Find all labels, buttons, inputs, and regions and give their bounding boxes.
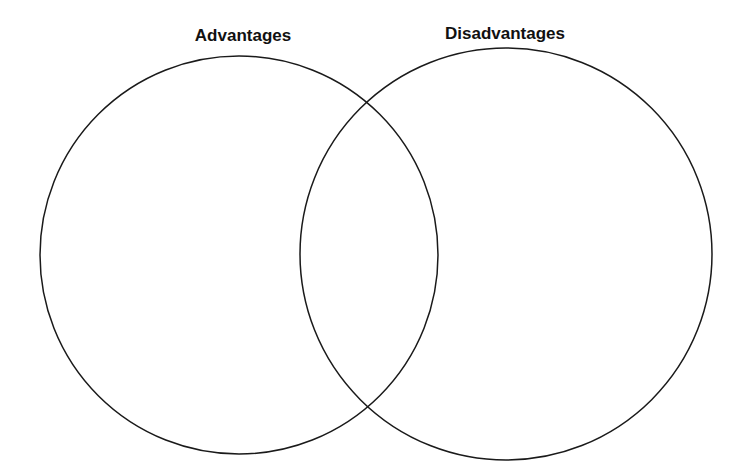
disadvantages-circle [300,48,712,460]
advantages-label: Advantages [195,26,291,46]
disadvantages-label: Disadvantages [445,24,565,44]
advantages-circle [40,56,438,454]
venn-diagram: Advantages Disadvantages [0,0,744,476]
venn-svg [0,0,744,476]
